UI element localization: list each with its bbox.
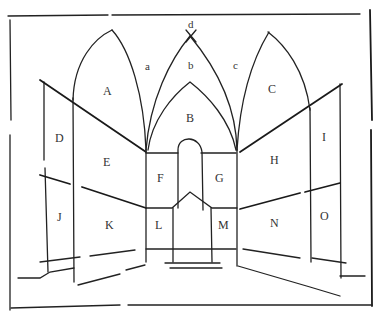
- central-apse: [146, 139, 237, 268]
- label-d: d: [188, 18, 194, 30]
- label-N: N: [270, 216, 279, 230]
- frame-bottom: [11, 305, 372, 308]
- arch-c-right: [268, 32, 310, 110]
- frame-left: [10, 20, 11, 310]
- label-M: M: [218, 218, 229, 232]
- label-b: b: [188, 59, 194, 71]
- label-E: E: [103, 155, 110, 169]
- right-perspective-lines: [238, 84, 346, 296]
- label-a: a: [145, 60, 150, 72]
- apex-cross-d: [186, 30, 196, 42]
- label-I: I: [322, 130, 326, 144]
- left-floor-diagonal: [78, 265, 145, 285]
- left-lower-line: [40, 250, 135, 262]
- label-C: C: [268, 82, 276, 96]
- frame-top: [8, 14, 360, 16]
- gothic-interior-sketch: A B C D E F G H I J K L M N O a b c d: [0, 0, 381, 319]
- label-B: B: [186, 111, 194, 125]
- right-pier-edge: [340, 84, 341, 278]
- label-J: J: [57, 210, 62, 224]
- label-K: K: [105, 218, 114, 232]
- right-pier-inner-edge: [310, 108, 311, 262]
- right-floor-diagonal: [238, 266, 340, 296]
- label-O: O: [320, 209, 329, 223]
- right-upper-diagonal: [240, 84, 342, 152]
- region-labels: A B C D E F G H I J K L M N O: [55, 82, 329, 232]
- label-H: H: [270, 153, 279, 167]
- left-floor-line: [18, 268, 74, 278]
- right-pier: [310, 84, 365, 278]
- left-pier-inner-edge: [73, 98, 74, 282]
- right-lower-line: [243, 249, 346, 263]
- altar-steps: [165, 263, 222, 268]
- label-F: F: [157, 171, 164, 185]
- label-G: G: [215, 171, 224, 185]
- altar-gable: [146, 192, 237, 208]
- arch-c-left: [237, 32, 269, 150]
- frame-right: [370, 10, 372, 306]
- left-middle-diagonal: [40, 175, 146, 208]
- vault-labels: a b c d: [145, 18, 238, 72]
- label-L: L: [155, 218, 162, 232]
- label-A: A: [103, 84, 112, 98]
- label-c: c: [233, 59, 238, 71]
- arch-b-right: [190, 36, 237, 150]
- altar-sides: [173, 208, 212, 262]
- label-D: D: [55, 131, 64, 145]
- outer-frame: [8, 10, 372, 310]
- left-perspective-lines: [40, 80, 146, 285]
- right-middle-diagonal: [240, 183, 340, 209]
